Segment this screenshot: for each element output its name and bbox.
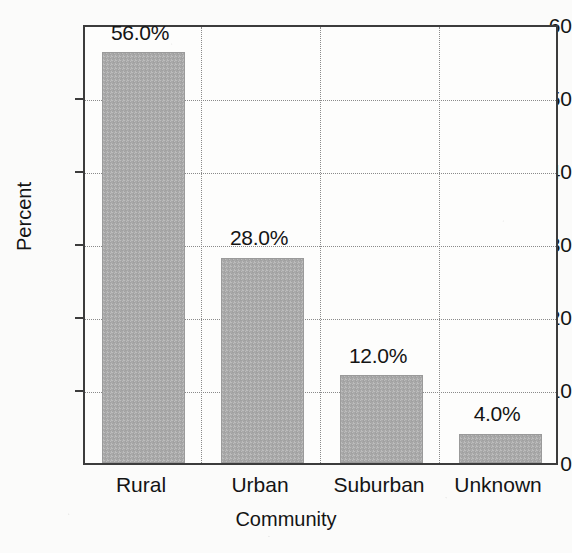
gridline-v-3 [439,27,440,463]
bar-value-label-unknown: 4.0% [417,403,572,425]
bar-rural[interactable] [102,52,185,463]
y-tick-mark-50 [75,98,83,100]
bar-value-label-rural: 56.0% [60,22,220,44]
bar-chart-figure: Percent 60 50 40 30 20 10 0 56.0% 28.0% … [0,0,572,553]
x-axis-title: Community [0,508,572,531]
y-tick-mark-30 [75,244,83,246]
x-tick-label-unknown: Unknown [418,473,572,497]
y-axis-title: Percent [13,147,36,287]
y-tick-mark-20 [75,317,83,319]
y-tick-mark-40 [75,171,83,173]
y-tick-mark-10 [75,390,83,392]
bar-urban[interactable] [221,258,304,463]
bar-unknown[interactable] [459,434,542,463]
bar-value-label-suburban: 12.0% [298,345,458,367]
bar-value-label-urban: 28.0% [179,227,339,249]
bar-suburban[interactable] [340,375,423,463]
